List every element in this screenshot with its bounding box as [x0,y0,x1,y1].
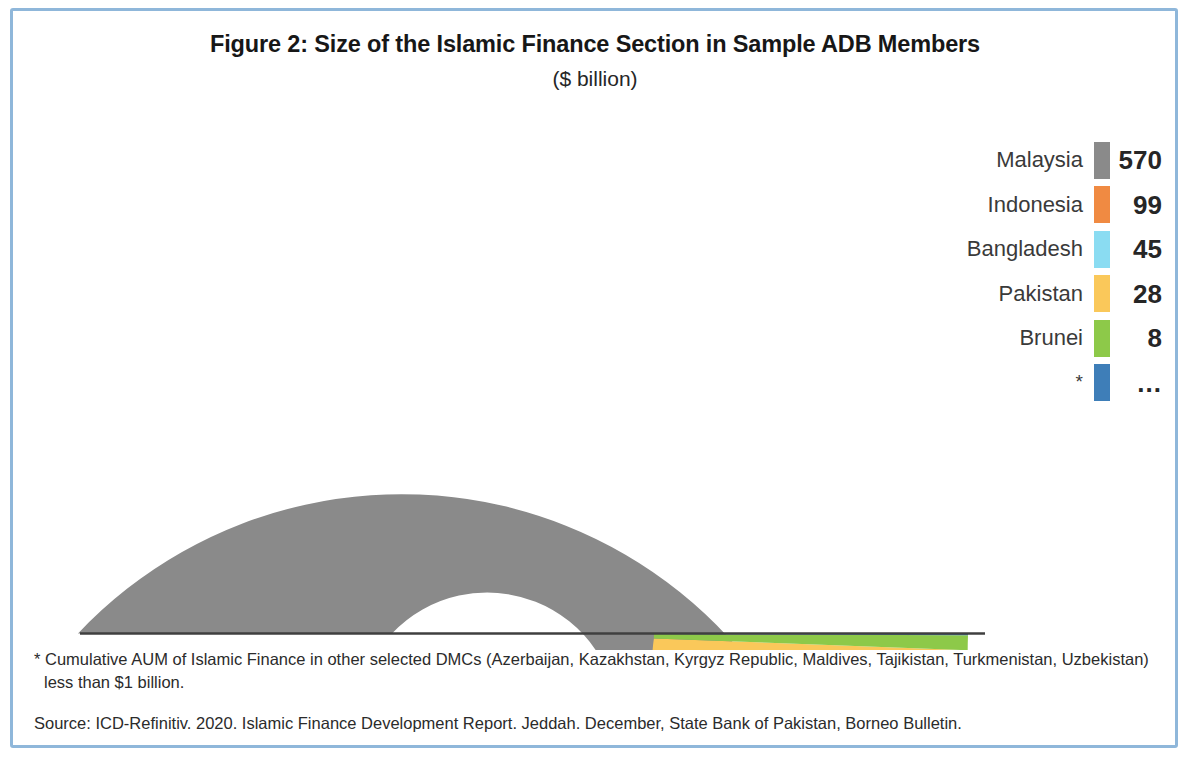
figure-page: Figure 2: Size of the Islamic Finance Se… [0,0,1190,760]
legend-label-indonesia: Indonesia [905,194,1094,216]
legend-label-bangladesh: Bangladesh [905,238,1094,260]
legend-row[interactable]: * ... [905,361,1170,406]
legend-value-other: ... [1110,370,1170,396]
notes-block: * Cumulative AUM of Islamic Finance in o… [34,648,1154,735]
half-donut-chart [40,150,990,650]
legend-label-other: * [905,372,1094,393]
legend-value-brunei: 8 [1110,325,1170,351]
legend-value-malaysia: 570 [1110,147,1170,173]
legend-row[interactable]: Bangladesh 45 [905,227,1170,272]
legend-value-indonesia: 99 [1110,192,1170,218]
legend-label-malaysia: Malaysia [905,149,1094,171]
legend-row[interactable]: Malaysia 570 [905,138,1170,183]
legend-swatch-pakistan [1094,275,1110,312]
pie-slices [78,494,968,650]
legend-value-pakistan: 28 [1110,281,1170,307]
legend-swatch-brunei [1094,320,1110,357]
legend-swatch-other [1094,364,1110,401]
legend-row[interactable]: Indonesia 99 [905,183,1170,228]
pie-slice-malaysia[interactable] [78,494,846,650]
legend: Malaysia 570 Indonesia 99 Bangladesh 45 … [905,138,1170,405]
legend-swatch-bangladesh [1094,231,1110,268]
source-text: Source: ICD-Refinitiv. 2020. Islamic Fin… [34,712,1154,735]
legend-swatch-malaysia [1094,142,1110,179]
legend-swatch-indonesia [1094,186,1110,223]
legend-value-bangladesh: 45 [1110,236,1170,262]
legend-label-pakistan: Pakistan [905,283,1094,305]
legend-row[interactable]: Pakistan 28 [905,272,1170,317]
footnote-text: * Cumulative AUM of Islamic Finance in o… [34,648,1154,695]
legend-row[interactable]: Brunei 8 [905,316,1170,361]
legend-label-brunei: Brunei [905,327,1094,349]
